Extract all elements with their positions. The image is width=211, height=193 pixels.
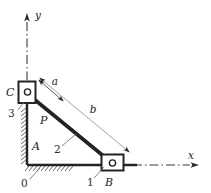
ground-0-label: 0: [21, 177, 28, 189]
x-axis-label: x: [188, 149, 194, 161]
link-2-connecting-rod: [29, 95, 112, 163]
joint-b-label: B: [104, 176, 113, 189]
joint-a-label: A: [31, 140, 40, 153]
vertical-guide-hatching: [21, 108, 26, 164]
dimension-b-arrowhead-end: [123, 146, 130, 152]
y-axis-label: y: [34, 9, 42, 21]
y-axis-group: [24, 13, 30, 82]
link-3-label: 3: [8, 107, 15, 119]
slider-c-group: [19, 82, 36, 104]
point-p-label: P: [39, 114, 48, 127]
slider-b-group: [102, 155, 124, 171]
x-axis-arrowhead: [191, 162, 200, 168]
dimension-a-arrowhead-end: [57, 95, 63, 101]
leader-line-link2: [62, 134, 76, 146]
y-axis-arrowhead: [24, 13, 30, 22]
slider-c-label: C: [6, 86, 15, 99]
mechanism-diagram-canvas: a b y x C 3 2 1 0 A B P: [0, 0, 211, 193]
link-2-body: [29, 95, 112, 163]
link-2-label: 2: [54, 143, 61, 155]
leader-line-link1: [94, 167, 104, 178]
slider-b-pin-joint: [109, 160, 115, 166]
slider-c-pin-joint: [24, 89, 30, 95]
dimension-b-label: b: [90, 103, 97, 115]
horizontal-guide-hatching: [25, 166, 73, 171]
x-axis-group: [133, 162, 199, 168]
mechanism-figure: a b y x C 3 2 1 0 A B P: [0, 0, 211, 193]
dimension-a-label: a: [52, 75, 58, 87]
link-1-label: 1: [87, 176, 94, 188]
leader-line-ground0: [30, 168, 40, 179]
